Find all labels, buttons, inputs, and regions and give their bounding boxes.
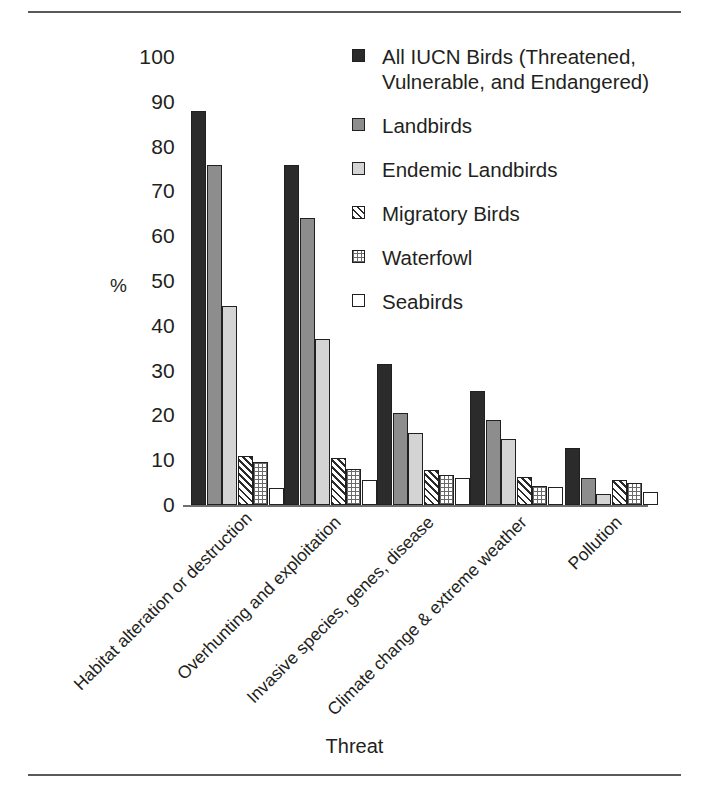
top-divider-rule xyxy=(28,11,681,13)
bar xyxy=(346,469,361,505)
y-tick-label: 60 xyxy=(151,224,175,248)
bar xyxy=(362,480,377,505)
bar xyxy=(408,433,423,505)
legend-swatch-icon xyxy=(352,250,365,263)
bar xyxy=(501,439,516,505)
bar xyxy=(191,111,206,505)
bar xyxy=(424,470,439,505)
legend-swatch-icon xyxy=(352,294,365,307)
y-axis-tick-labels: 1009080706050403020100 xyxy=(113,57,175,505)
legend-item-label: Waterfowl xyxy=(382,245,472,270)
y-tick-label: 90 xyxy=(151,90,175,114)
bar xyxy=(548,487,563,505)
legend-swatch-icon xyxy=(352,206,365,219)
legend-swatch-icon xyxy=(352,162,365,175)
figure-panel: % 1009080706050403020100 Habitat alterat… xyxy=(0,0,709,793)
legend-item[interactable]: Endemic Landbirds xyxy=(352,157,692,182)
bar xyxy=(300,218,315,505)
bar xyxy=(581,478,596,505)
x-axis-line xyxy=(183,505,648,507)
legend-swatch-icon xyxy=(352,118,365,131)
y-tick-label: 100 xyxy=(139,45,175,69)
legend-swatch-icon xyxy=(352,49,365,62)
legend-item-label: Seabirds xyxy=(382,289,463,314)
legend-item-label: Migratory Birds xyxy=(382,201,520,226)
bar xyxy=(284,165,299,505)
legend-item[interactable]: Landbirds xyxy=(352,113,692,138)
legend-item[interactable]: Seabirds xyxy=(352,289,692,314)
bar xyxy=(315,339,330,505)
bar xyxy=(238,456,253,505)
chart-legend: All IUCN Birds (Threatened, Vulnerable, … xyxy=(352,44,692,333)
y-tick-label: 80 xyxy=(151,135,175,159)
bar xyxy=(565,448,580,505)
bar-group xyxy=(191,57,284,505)
bar xyxy=(627,483,642,505)
bar xyxy=(486,420,501,505)
y-tick-label: 40 xyxy=(151,314,175,338)
y-tick-label: 10 xyxy=(151,448,175,472)
y-tick-label: 30 xyxy=(151,359,175,383)
legend-item[interactable]: All IUCN Birds (Threatened, Vulnerable, … xyxy=(352,44,692,94)
bar xyxy=(470,391,485,505)
x-tick-label: Habitat alteration or destruction xyxy=(70,512,253,695)
bar xyxy=(331,458,346,505)
bar xyxy=(612,480,627,505)
y-tick-label: 70 xyxy=(151,179,175,203)
y-tick-label: 0 xyxy=(163,493,175,517)
bar xyxy=(377,364,392,505)
x-axis-title: Threat xyxy=(0,735,709,758)
bar xyxy=(222,306,237,505)
legend-item-label: Endemic Landbirds xyxy=(382,157,558,182)
bar xyxy=(517,477,532,505)
y-tick-label: 20 xyxy=(151,403,175,427)
legend-item-label: Landbirds xyxy=(382,113,472,138)
bar xyxy=(643,492,658,505)
bar xyxy=(532,486,547,505)
legend-item[interactable]: Waterfowl xyxy=(352,245,692,270)
y-tick-label: 50 xyxy=(151,269,175,293)
legend-item-label: All IUCN Birds (Threatened, Vulnerable, … xyxy=(382,44,692,94)
bar xyxy=(253,462,268,505)
bar xyxy=(596,494,611,505)
legend-item[interactable]: Migratory Birds xyxy=(352,201,692,226)
bar xyxy=(393,413,408,505)
bar xyxy=(207,165,222,505)
bar xyxy=(439,475,454,505)
bar xyxy=(455,478,470,505)
bar xyxy=(269,488,284,505)
